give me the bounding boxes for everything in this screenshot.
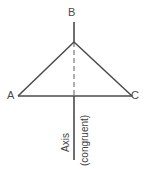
geometry-diagram: B A C Axis (congruent) bbox=[0, 0, 148, 169]
vertex-label-a: A bbox=[7, 90, 14, 101]
triangle-side-bc bbox=[74, 42, 132, 96]
triangle-side-ab bbox=[18, 42, 74, 96]
triangle-axis-figure bbox=[0, 0, 148, 169]
vertex-label-b: B bbox=[68, 7, 75, 18]
axis-congruent-note: (congruent) bbox=[80, 115, 90, 166]
vertex-label-c: C bbox=[131, 90, 139, 101]
axis-label: Axis bbox=[61, 133, 71, 152]
